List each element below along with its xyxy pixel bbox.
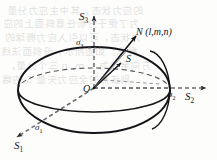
meridian-right-upper-arc xyxy=(150,51,170,90)
ellipsoid-drawing xyxy=(0,0,217,160)
stress-projection-guide xyxy=(104,80,160,84)
origin-label: O xyxy=(83,84,90,94)
sigma2-label: σ2 xyxy=(168,90,175,102)
equator-front-arc xyxy=(18,90,170,112)
stress-vector-s xyxy=(94,63,121,88)
normal-vector-label: N (l,m,n) xyxy=(136,27,172,37)
figure-container: 的应力状态，其中主应力分量 为了便于分析任意斜面上的应 力状态，可以引入应力椭球… xyxy=(0,0,217,160)
axis-label-s3: S3 xyxy=(79,11,88,25)
stress-vector-label: S xyxy=(126,54,131,64)
sigma3-label: σ3 xyxy=(76,38,83,50)
sigma1-label: σ1 xyxy=(35,123,42,135)
origin-point xyxy=(93,87,96,90)
axis-label-s2: S2 xyxy=(185,91,194,105)
axis-label-s1: S1 xyxy=(14,140,23,154)
